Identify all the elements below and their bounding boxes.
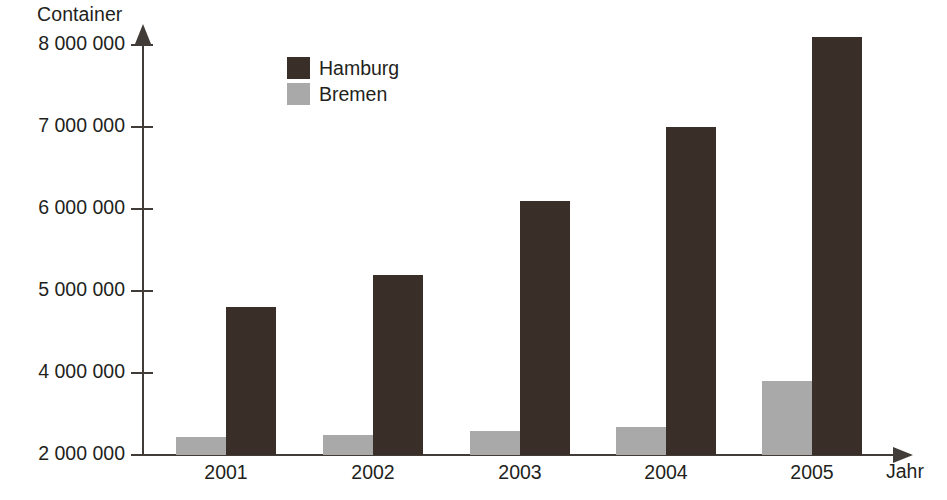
bar-hamburg-2002 bbox=[373, 275, 423, 455]
legend-item-bremen: Bremen bbox=[287, 81, 399, 107]
legend-label-hamburg: Hamburg bbox=[319, 57, 399, 80]
bar-chart: Container 8 000 0007 000 0006 000 0005 0… bbox=[0, 0, 947, 500]
bar-hamburg-2001 bbox=[226, 307, 276, 455]
x-axis-title: Jahr bbox=[886, 460, 924, 483]
plot-area bbox=[0, 0, 947, 500]
bar-bremen-2003 bbox=[470, 431, 520, 455]
legend-swatch-hamburg bbox=[287, 57, 310, 79]
x-axis-label-2001: 2001 bbox=[156, 461, 296, 484]
bar-bremen-2001 bbox=[176, 437, 226, 455]
x-axis-label-2004: 2004 bbox=[596, 461, 736, 484]
bar-hamburg-2003 bbox=[520, 201, 570, 455]
legend-swatch-bremen bbox=[287, 83, 310, 105]
bar-hamburg-2004 bbox=[666, 127, 716, 455]
bar-bremen-2004 bbox=[616, 427, 666, 455]
legend: Hamburg Bremen bbox=[287, 55, 399, 107]
bar-bremen-2005 bbox=[762, 381, 812, 455]
x-axis-label-2003: 2003 bbox=[450, 461, 590, 484]
bar-hamburg-2005 bbox=[812, 37, 862, 455]
legend-item-hamburg: Hamburg bbox=[287, 55, 399, 81]
bar-bremen-2002 bbox=[323, 435, 373, 456]
legend-label-bremen: Bremen bbox=[319, 83, 387, 106]
x-axis-label-2005: 2005 bbox=[742, 461, 882, 484]
x-axis-label-2002: 2002 bbox=[303, 461, 443, 484]
